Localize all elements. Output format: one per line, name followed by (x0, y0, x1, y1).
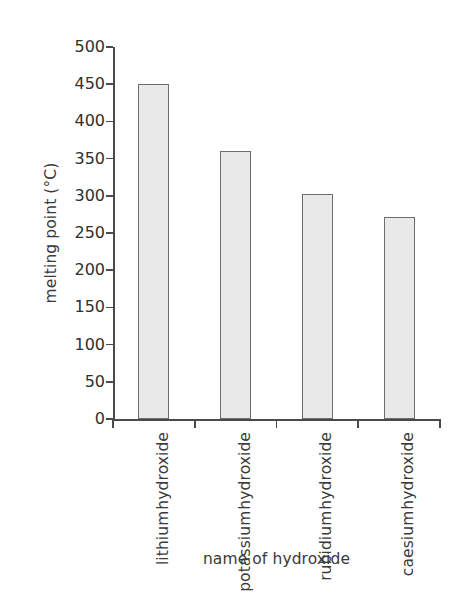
y-axis-tick (106, 344, 113, 346)
x-axis-category-label-line: hydroxide (236, 432, 255, 510)
y-axis-tick-labels: 050100150200250300350400450500 (45, 0, 105, 595)
x-axis-title: name of hydroxide (113, 550, 440, 568)
y-axis-tick (106, 46, 113, 48)
x-axis-category-label-line: hydroxide (154, 432, 173, 510)
bar (220, 151, 251, 419)
x-axis-tick (194, 419, 196, 428)
y-axis-tick (106, 158, 113, 160)
y-axis-tick (106, 381, 113, 383)
x-axis-tick (357, 419, 359, 428)
y-axis-tick-label: 350 (45, 151, 105, 167)
x-axis-category-label-line: hydroxide (317, 432, 336, 510)
x-axis-category-label: potassiumhydroxide (236, 432, 276, 540)
y-axis-tick (106, 269, 113, 271)
x-axis-category-label: lithiumhydroxide (154, 432, 194, 540)
bar (138, 84, 169, 419)
x-axis-tick (112, 419, 114, 428)
y-axis-tick-label: 50 (45, 374, 105, 390)
y-axis-tick (106, 232, 113, 234)
y-axis-tick (106, 121, 113, 123)
y-axis-tick (106, 83, 113, 85)
bar (302, 194, 333, 419)
y-axis-line (113, 47, 115, 419)
y-axis-tick-label: 250 (45, 225, 105, 241)
y-axis-tick-label: 200 (45, 262, 105, 278)
y-axis-tick-label: 400 (45, 113, 105, 129)
y-axis-tick-label: 450 (45, 76, 105, 92)
bar-chart: melting point (°C) 050100150200250300350… (0, 0, 469, 595)
y-axis-tick-label: 300 (45, 188, 105, 204)
plot-area (113, 47, 440, 419)
x-axis-category-label: rubidiumhydroxide (317, 432, 357, 540)
x-axis-category-label: caesiumhydroxide (399, 432, 439, 540)
x-axis-category-label-line: rubidium (317, 511, 336, 581)
x-axis-tick (276, 419, 278, 428)
y-axis-tick-label: 150 (45, 299, 105, 315)
y-axis-tick-label: 100 (45, 337, 105, 353)
y-axis-tick (106, 195, 113, 197)
x-axis-category-label-line: hydroxide (399, 432, 418, 510)
y-axis-tick-label: 0 (45, 411, 105, 427)
y-axis-tick (106, 307, 113, 309)
x-axis-tick (439, 419, 441, 428)
y-axis-tick-label: 500 (45, 39, 105, 55)
bar (384, 217, 415, 419)
